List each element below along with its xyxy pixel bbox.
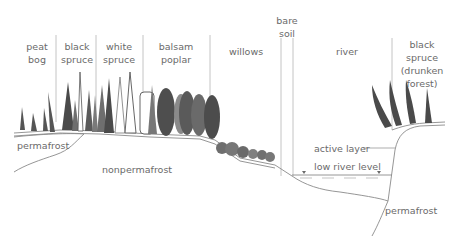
black-spruce-trees	[62, 72, 98, 132]
ground-lines	[14, 122, 445, 236]
zone-label-peat-bog: peat bog	[22, 40, 52, 66]
label-low-river-level: low river level	[314, 160, 381, 173]
zone-label-black-spruce: black spruce	[58, 40, 96, 66]
zone-label-bare-soil: bare soil	[274, 14, 300, 40]
peat-bog-trees	[20, 92, 55, 132]
label-nonpermafrost: nonpermafrost	[102, 163, 172, 176]
zone-label-drunken-forest: black spruce (drunken forest)	[399, 38, 445, 90]
label-permafrost-left: permafrost	[17, 139, 69, 152]
boreal-floodplain-diagram: peat bog black spruce white spruce balsa…	[0, 0, 451, 238]
diagram-svg	[0, 0, 451, 238]
label-active-layer: active layer	[314, 142, 370, 155]
label-permafrost-right: permafrost	[385, 204, 437, 217]
balsam-poplar-trees	[140, 85, 220, 139]
zone-label-white-spruce: white spruce	[99, 40, 139, 66]
zone-label-river: river	[327, 45, 367, 58]
white-spruce-trees	[97, 72, 136, 133]
zone-label-balsam-poplar: balsam poplar	[156, 40, 196, 66]
zone-label-willows: willows	[226, 45, 266, 58]
